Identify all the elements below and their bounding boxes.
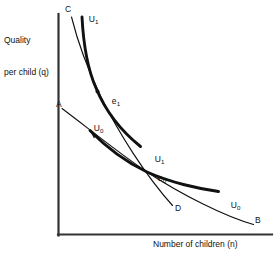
label-equilibrium-e1: e1 xyxy=(102,86,120,117)
y-axis-title-line1: Quality xyxy=(4,35,49,46)
y-axis-title: Quality per child (q) xyxy=(4,14,49,98)
tangency-marker-e1 xyxy=(96,90,100,94)
label-u1-mid-subscript: 1 xyxy=(161,158,164,165)
label-e0-subscript: 0 xyxy=(163,177,166,184)
label-e1-base: e xyxy=(112,96,117,106)
label-point-b: B xyxy=(255,215,261,225)
label-u0-left-subscript: 0 xyxy=(100,127,103,134)
label-e1-subscript: 1 xyxy=(117,100,120,107)
label-curve-u0-right: U0 xyxy=(221,190,241,221)
y-axis-title-line2: per child (q) xyxy=(4,67,49,78)
label-point-a: A xyxy=(56,99,62,109)
label-point-c: C xyxy=(65,4,71,14)
label-curve-u1-top: U1 xyxy=(79,4,99,35)
label-u0-right-subscript: 0 xyxy=(237,204,240,211)
label-u1-top-subscript: 1 xyxy=(95,18,98,25)
indifference-curve-figure: Quality per child (q) Number of children… xyxy=(0,0,278,254)
label-point-d: D xyxy=(175,203,181,213)
label-curve-u0-left: U0 xyxy=(84,113,104,144)
label-curve-u1-mid: U1 xyxy=(145,144,165,175)
x-axis-title: Number of children (n) xyxy=(153,239,238,250)
